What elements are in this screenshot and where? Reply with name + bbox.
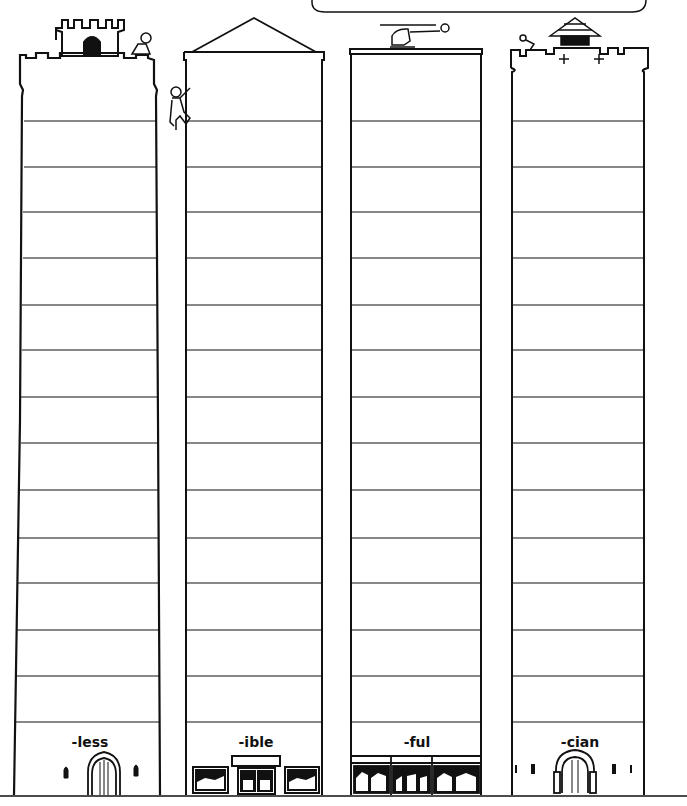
person-icon [520, 35, 534, 50]
battlement-outline [20, 53, 160, 795]
window-icon [134, 765, 138, 776]
cross-icon [559, 54, 604, 64]
building-castle [511, 18, 648, 795]
window-icon [531, 764, 535, 774]
suffix-label-cian: -cian [520, 734, 640, 750]
helicopter-icon [380, 24, 449, 47]
window-icon [630, 765, 632, 773]
floor-lines [15, 121, 160, 722]
gable-roof-icon [192, 18, 316, 52]
suffix-label-less: -less [30, 734, 150, 750]
pagoda-roof-icon [550, 18, 600, 45]
turret-icon [56, 20, 124, 56]
arched-door-icon [88, 752, 120, 795]
building-skyscraper [350, 24, 482, 795]
building-tower [14, 20, 160, 795]
battlement-outline [511, 48, 648, 795]
worksheet-drawing [0, 0, 687, 806]
arched-door-icon [554, 750, 596, 793]
person-icon [132, 33, 151, 54]
suffix-label-ful: -ful [357, 734, 477, 750]
shopfront-icon [193, 756, 319, 794]
building-office [170, 18, 324, 795]
suffix-label-ible: -ible [196, 734, 316, 750]
window-icon [64, 767, 68, 778]
helipad [350, 49, 482, 54]
title-box-outline [312, 0, 646, 12]
storefront-icon [352, 756, 480, 795]
window-icon [612, 764, 616, 774]
window-icon [515, 765, 517, 773]
